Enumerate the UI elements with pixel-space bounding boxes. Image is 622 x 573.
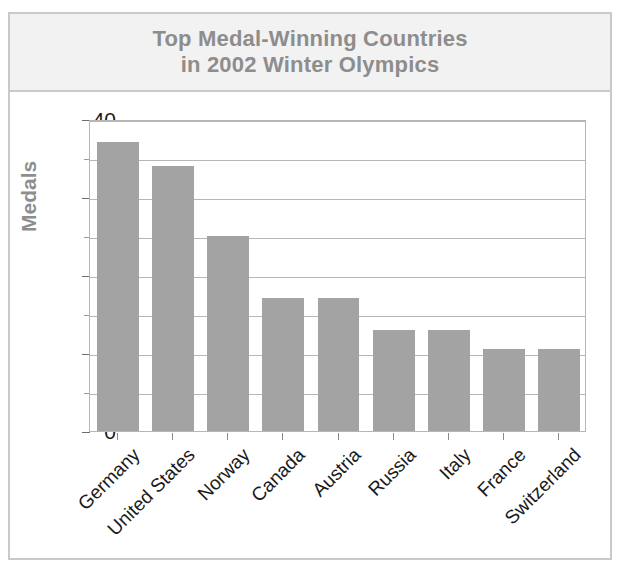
x-axis-category-label: Italy: [435, 444, 475, 484]
x-axis-tick: [338, 433, 339, 440]
x-axis-tick: [117, 433, 118, 440]
x-axis-tick: [172, 433, 173, 440]
x-axis-category-label: Austria: [308, 444, 365, 501]
x-axis-tick: [282, 433, 283, 440]
x-axis-tick: [227, 433, 228, 440]
x-axis-category-label: Canada: [247, 444, 310, 507]
x-axis-tick: [558, 433, 559, 440]
x-axis-tick: [448, 433, 449, 440]
x-axis-category-label: Norway: [194, 444, 255, 505]
x-axis-category-label: Russia: [364, 444, 421, 501]
x-axis-labels: GermanyUnited StatesNorwayCanadaAustriaR…: [0, 0, 622, 573]
chart-figure: Top Medal-Winning Countries in 2002 Wint…: [0, 0, 622, 573]
x-axis-tick: [503, 433, 504, 440]
x-axis-tick: [393, 433, 394, 440]
